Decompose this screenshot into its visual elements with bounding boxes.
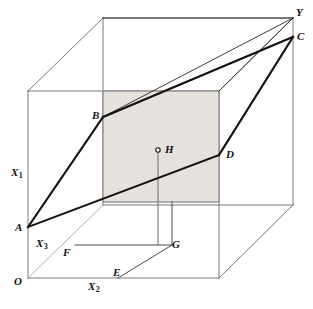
vertex-label-B: B [92, 110, 100, 121]
axis-label-x3-base: X [36, 237, 44, 249]
axis-label-x2: X2 [88, 281, 100, 294]
geometry-figure: O A B C D E F G H Y X1 X2 X3 [0, 0, 313, 309]
vertex-label-Y: Y [296, 7, 303, 18]
geometry-canvas [0, 0, 313, 309]
axis-label-x1: X1 [11, 167, 23, 180]
point-H-marker [156, 148, 160, 152]
vertex-label-O: O [14, 276, 22, 287]
axis-label-x2-base: X [88, 280, 96, 292]
vertex-label-E: E [113, 267, 121, 278]
vertex-label-C: C [297, 31, 305, 42]
vertex-label-G: G [172, 239, 180, 250]
vertex-label-A: A [15, 222, 23, 233]
segment-EG [118, 245, 172, 278]
axis-label-x1-base: X [11, 166, 19, 178]
cube-edge-depth-bottom-right [219, 205, 293, 278]
plane-edge-AB [28, 117, 103, 227]
axis-label-x2-subscript: 2 [96, 285, 101, 294]
vertex-label-D: D [226, 149, 234, 160]
cube-edge-depth-top-left [28, 18, 103, 91]
axis-label-x1-subscript: 1 [19, 171, 24, 180]
vertex-label-H: H [165, 144, 174, 155]
base-helper-lines [75, 202, 172, 278]
axis-label-x3-subscript: 3 [44, 242, 49, 251]
axis-label-x3: X3 [36, 238, 48, 251]
vertex-label-F: F [63, 247, 71, 258]
